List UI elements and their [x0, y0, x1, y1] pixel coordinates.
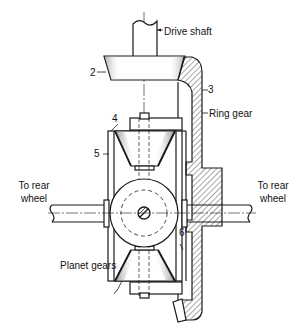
label-to-rear-right-line2: wheel [252, 193, 294, 204]
label-planet-gears: Planet gears [60, 260, 116, 271]
carrier-plate-top [130, 118, 182, 130]
bevel-pinion-2 [97, 56, 185, 80]
drive-shaft [133, 21, 163, 56]
differential-diagram [0, 0, 298, 336]
label-to-rear-left-line1: To rear [14, 180, 54, 191]
pin-bottom-head [140, 293, 149, 298]
label-part-2: 2 [90, 67, 96, 78]
label-ring-gear: Ring gear [209, 108, 252, 119]
label-to-rear-wheel-left: To rear wheel [14, 180, 54, 204]
label-part-5: 5 [94, 148, 100, 159]
pin-top-head [140, 113, 149, 119]
label-to-rear-left-line2: wheel [14, 193, 54, 204]
label-to-rear-right-line1: To rear [252, 180, 294, 191]
label-part-4: 4 [112, 113, 118, 124]
label-drive-shaft: Drive shaft [164, 26, 212, 37]
carrier-plate-bottom [130, 282, 182, 294]
axle-left [50, 200, 109, 227]
label-part-3: 3 [208, 84, 214, 95]
label-part-6: 6 [179, 227, 185, 238]
label-to-rear-wheel-right: To rear wheel [252, 180, 294, 204]
